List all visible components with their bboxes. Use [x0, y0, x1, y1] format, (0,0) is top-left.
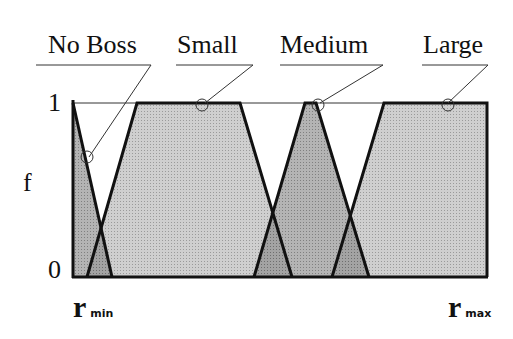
small-leader	[176, 65, 253, 103]
label-no-boss: No Boss	[48, 30, 137, 60]
y-axis-label: f	[23, 168, 32, 198]
r-min-subscript: min	[90, 307, 113, 320]
large-leader	[422, 65, 488, 103]
r-max-symbol: r	[448, 290, 461, 323]
x-min-label: r min	[73, 290, 113, 324]
label-small: Small	[177, 30, 238, 60]
y-tick-0: 0	[48, 255, 61, 285]
r-min-symbol: r	[73, 290, 86, 323]
label-medium: Medium	[280, 30, 368, 60]
r-max-subscript: max	[465, 307, 491, 320]
medium-leader	[280, 65, 383, 103]
label-large: Large	[423, 30, 483, 60]
y-tick-1: 1	[48, 88, 61, 118]
x-max-label: r max	[448, 290, 491, 324]
